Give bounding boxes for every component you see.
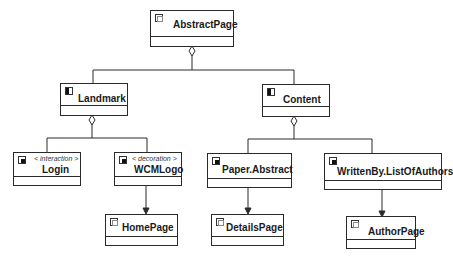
class-box-abstractpage[interactable]: AbstractPage [150, 10, 234, 47]
area-icon [65, 87, 73, 95]
class-name: WrittenBy.ListOfAuthors [337, 166, 453, 177]
class-name: DetailsPage [226, 222, 283, 233]
stereotype-label: < interaction > [34, 155, 78, 162]
class-name: Paper.Abstract [222, 164, 293, 175]
page-icon [110, 218, 118, 226]
unit-icon [212, 157, 220, 165]
unit-icon [119, 156, 127, 164]
aggregation-diamond-icon [89, 115, 95, 125]
class-name: HomePage [122, 222, 174, 233]
class-box-content[interactable]: Content [262, 84, 330, 117]
class-name: AuthorPage [368, 226, 425, 237]
class-name: WCMLogo [134, 164, 183, 175]
page-icon [155, 14, 163, 22]
class-box-homepage[interactable]: HomePage [105, 214, 178, 246]
aggregation-diamond-icon [291, 116, 297, 126]
aggregation-diamond-icon [189, 46, 195, 56]
unit-icon [18, 156, 26, 164]
area-icon [267, 88, 275, 96]
class-box-writtenby-listofauthors[interactable]: WrittenBy.ListOfAuthors [324, 153, 442, 190]
page-icon [351, 220, 359, 228]
unit-icon [329, 157, 337, 165]
class-box-authorpage[interactable]: AuthorPage [346, 216, 416, 249]
class-name: Login [42, 164, 69, 175]
class-box-detailspage[interactable]: DetailsPage [211, 214, 284, 246]
class-name: Landmark [78, 93, 126, 104]
class-name: Content [283, 94, 321, 105]
class-box-landmark[interactable]: Landmark [60, 83, 128, 116]
class-name: AbstractPage [173, 19, 237, 30]
class-box-login[interactable]: < interaction > Login [13, 152, 81, 186]
page-icon [216, 218, 224, 226]
stereotype-label: < decoration > [132, 155, 177, 162]
class-box-paper-abstract[interactable]: Paper.Abstract [207, 153, 292, 188]
class-box-wcmlogo[interactable]: < decoration > WCMLogo [114, 152, 182, 186]
